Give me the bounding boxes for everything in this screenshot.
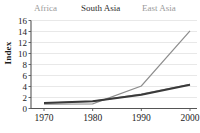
- y-tick-label: 4: [23, 82, 28, 92]
- x-axis-ticks: 1970198019902000: [35, 109, 200, 124]
- series-line-south-asia: [44, 85, 190, 103]
- y-tick-label: 14: [18, 27, 28, 37]
- series-line-east-asia: [44, 31, 190, 104]
- y-tick-label: 2: [23, 93, 28, 103]
- gridlines: [31, 21, 197, 98]
- chart-plot-area: 0246810121416 1970198019902000: [0, 0, 200, 133]
- series-line-africa: [44, 84, 190, 103]
- x-tick-label: 2000: [181, 113, 200, 123]
- x-tick-label: 1990: [132, 113, 151, 123]
- y-tick-label: 8: [23, 60, 28, 70]
- y-tick-label: 12: [18, 38, 27, 48]
- line-chart: Africa South Asia East Asia Index 024681…: [0, 0, 200, 133]
- y-tick-label: 10: [18, 49, 28, 59]
- x-tick-label: 1970: [35, 113, 54, 123]
- y-tick-label: 0: [23, 104, 28, 114]
- x-tick-label: 1980: [83, 113, 102, 123]
- data-series: [44, 31, 190, 104]
- y-axis-ticks: 0246810121416: [18, 16, 31, 114]
- y-tick-label: 16: [18, 16, 28, 26]
- y-tick-label: 6: [23, 71, 28, 81]
